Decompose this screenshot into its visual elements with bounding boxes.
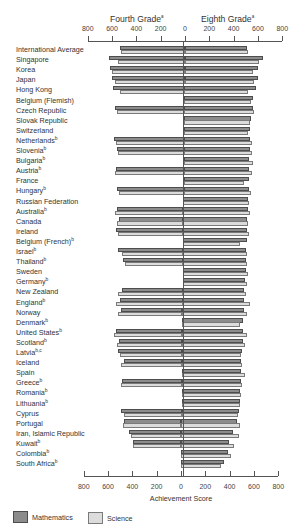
- country-label: Slovak Republic: [16, 116, 68, 125]
- country-label: Austriab: [16, 166, 41, 175]
- bar-eighth-grade-science: [182, 333, 247, 337]
- bar-eighth-grade-science: [184, 151, 252, 155]
- bar-eighth-grade-science: [183, 302, 250, 306]
- bar-eighth-grade-science: [182, 353, 241, 357]
- axis-tick-label: 200: [203, 25, 215, 32]
- bar-eighth-grade-science: [182, 403, 240, 407]
- bar-fourth-grade-science: [120, 90, 185, 94]
- legend-swatch-science: [88, 512, 103, 524]
- country-label: Sloveniab: [16, 146, 46, 155]
- footnote-superscript: b: [44, 145, 47, 151]
- axis-tick-label: 800: [272, 483, 284, 490]
- legend-label-science: Science: [107, 514, 133, 523]
- axis-tick: [88, 36, 89, 41]
- zero-line: [183, 41, 184, 476]
- country-label: United Statesb: [16, 328, 62, 337]
- footnote-superscript: b: [44, 206, 47, 212]
- footnote-superscript: b: [38, 165, 41, 171]
- country-label: Israelb: [16, 247, 36, 256]
- bar-fourth-grade-science: [121, 363, 182, 367]
- bar-eighth-grade-science: [185, 60, 259, 64]
- bar-eighth-grade-science: [184, 120, 250, 124]
- bar-fourth-grade-science: [115, 80, 185, 84]
- footnote-superscript: b: [44, 256, 47, 262]
- eighth-grade-header: Eighth Gradea: [201, 14, 254, 24]
- country-label: Romaniab: [16, 388, 48, 397]
- bar-eighth-grade-science: [182, 413, 238, 417]
- country-label: Russian Federation: [16, 197, 78, 206]
- axis-tick: [258, 36, 259, 41]
- footnote-superscript: b,c: [35, 347, 42, 353]
- bar-eighth-grade-science: [183, 211, 249, 215]
- footnote-superscript: b: [43, 185, 46, 191]
- bar-fourth-grade-science: [117, 343, 182, 347]
- axis-tick-label: 200: [151, 483, 163, 490]
- country-label: France: [16, 176, 38, 185]
- country-label: Latviab,c: [16, 348, 42, 357]
- axis-tick: [132, 471, 133, 476]
- axis-tick: [205, 471, 206, 476]
- bar-eighth-grade-science: [184, 161, 253, 165]
- bar-eighth-grade-science: [184, 131, 247, 135]
- bar-eighth-grade-science: [181, 434, 238, 438]
- footnote-superscript: b: [55, 458, 58, 464]
- axis-tick-label: 0: [179, 483, 183, 490]
- footnote-superscript: b: [59, 327, 62, 333]
- country-label: Switzerland: [16, 126, 53, 135]
- country-label: Spain: [16, 368, 34, 377]
- footnote-superscript: b: [42, 155, 45, 161]
- bar-fourth-grade-science: [117, 110, 185, 114]
- country-label: Korea: [16, 65, 35, 74]
- country-label: Czech Republic: [16, 106, 66, 115]
- footnote-superscript: b: [38, 438, 41, 444]
- bar-fourth-grade-science: [121, 383, 181, 387]
- bar-fourth-grade-science: [123, 423, 181, 427]
- bar-eighth-grade-science: [183, 272, 248, 276]
- bar-fourth-grade-science: [118, 151, 184, 155]
- bar-fourth-grade-science: [125, 262, 183, 266]
- country-label: Belgium (French)b: [16, 237, 74, 246]
- country-label: Cyprus: [16, 409, 39, 418]
- footnote-superscript: b: [45, 398, 48, 404]
- bar-eighth-grade-science: [183, 201, 248, 205]
- bar-eighth-grade-science: [183, 221, 248, 225]
- bar-fourth-grade-science: [122, 252, 183, 256]
- bar-eighth-grade-science: [183, 292, 247, 296]
- bar-fourth-grade-science: [115, 211, 183, 215]
- country-label: Portugal: [16, 419, 43, 428]
- bar-fourth-grade-science: [121, 50, 185, 54]
- country-label: International Average: [16, 45, 84, 54]
- bar-eighth-grade-science: [181, 464, 221, 468]
- bar-fourth-grade-science: [118, 232, 184, 236]
- bar-fourth-grade-science: [118, 312, 182, 316]
- axis-tick-label: 600: [252, 25, 264, 32]
- country-label: Iran, Islamic Republic: [16, 429, 85, 438]
- bar-eighth-grade-science: [185, 80, 254, 84]
- axis-tick-label: 600: [102, 483, 114, 490]
- bar-fourth-grade-science: [131, 434, 182, 438]
- axis-tick-label: 800: [276, 25, 288, 32]
- country-label: Denmarkb: [16, 318, 48, 327]
- axis-tick: [181, 471, 182, 476]
- axis-tick-label: 0: [183, 25, 187, 32]
- bar-fourth-grade-science: [118, 292, 183, 296]
- eighth-grade-header-text: Eighth Grade: [201, 14, 252, 24]
- bar-fourth-grade-science: [116, 141, 184, 145]
- bar-eighth-grade-science: [184, 171, 252, 175]
- country-label: Sweden: [16, 267, 42, 276]
- bar-fourth-grade-science: [117, 221, 184, 225]
- bar-eighth-grade-science: [185, 70, 254, 74]
- bar-eighth-grade-science: [184, 191, 251, 195]
- bar-eighth-grade-science: [182, 322, 240, 326]
- footnote-superscript: b: [42, 297, 45, 303]
- axis-tick-label: 400: [228, 25, 240, 32]
- country-label: Netherlandsb: [16, 136, 58, 145]
- footnote-superscript: b: [45, 317, 48, 323]
- bar-fourth-grade-science: [120, 353, 182, 357]
- country-label: Lithuaniab: [16, 399, 48, 408]
- axis-tick-label: 800: [78, 483, 90, 490]
- footnote-superscript: b: [44, 337, 47, 343]
- axis-baseline: [88, 41, 283, 42]
- bar-fourth-grade-science: [112, 70, 185, 74]
- footnote-superscript: b: [55, 135, 58, 141]
